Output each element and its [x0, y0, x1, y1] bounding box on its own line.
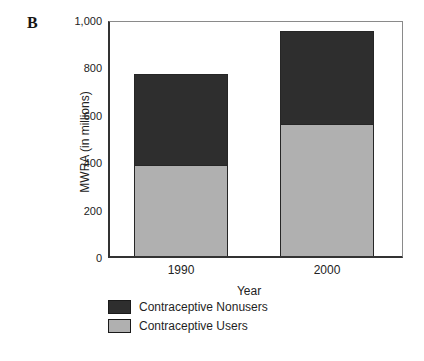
bar-segment-nonusers — [135, 75, 227, 165]
y-tick-label: 600 — [0, 109, 102, 123]
y-tick-label: 0 — [0, 251, 102, 265]
legend-item: Contraceptive Nonusers — [108, 300, 268, 314]
legend-label: Contraceptive Nonusers — [139, 300, 268, 314]
bar-segment-users — [281, 124, 373, 256]
x-tick-label: 2000 — [314, 263, 341, 277]
stacked-bar-chart-figure: B MWRA (in millions) 02004006008001,000 … — [0, 0, 424, 361]
bar-segment-nonusers — [281, 32, 373, 124]
x-axis-label: Year — [237, 284, 261, 298]
legend-item: Contraceptive Users — [108, 319, 268, 333]
plot-area — [108, 21, 403, 258]
y-tick-label: 1,000 — [0, 14, 102, 28]
bar-segment-users — [135, 165, 227, 257]
x-tick-label: 1990 — [168, 263, 195, 277]
y-axis-label: MWRA (in millions) — [78, 91, 92, 192]
y-tick-label: 800 — [0, 61, 102, 75]
y-tick-label: 200 — [0, 204, 102, 218]
legend-swatch — [108, 300, 131, 314]
legend-swatch — [108, 319, 131, 333]
legend-label: Contraceptive Users — [139, 319, 248, 333]
bar-1990 — [134, 74, 228, 256]
y-tick-label: 400 — [0, 156, 102, 170]
bar-2000 — [280, 31, 374, 256]
legend: Contraceptive NonusersContraceptive User… — [108, 300, 268, 333]
